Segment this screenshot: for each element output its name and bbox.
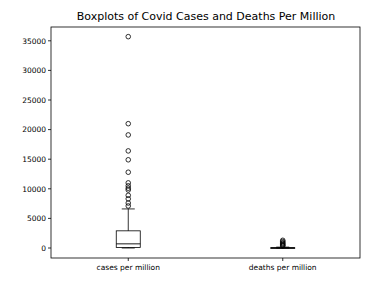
outlier-point: [126, 121, 131, 126]
outlier-point: [126, 149, 131, 154]
boxplot-cases: [116, 34, 140, 248]
outlier-point: [126, 157, 131, 162]
y-tick-label: 15000: [22, 155, 46, 164]
y-tick-label: 30000: [22, 66, 46, 75]
y-tick-label: 25000: [22, 96, 46, 105]
plot-frame: [51, 27, 360, 258]
boxplot-chart: Boxplots of Covid Cases and Deaths Per M…: [0, 0, 377, 290]
y-tick-label: 0: [41, 244, 46, 253]
x-axis: cases per milliondeaths per million: [97, 258, 317, 272]
y-axis: 05000100001500020000250003000035000: [22, 37, 51, 253]
y-tick-label: 5000: [27, 214, 46, 223]
x-tick-label: deaths per million: [249, 263, 317, 272]
y-tick-label: 10000: [22, 185, 46, 194]
boxplots: [116, 34, 295, 248]
y-tick-label: 35000: [22, 37, 46, 46]
chart-title: Boxplots of Covid Cases and Deaths Per M…: [77, 10, 336, 23]
boxplot-deaths: [271, 238, 295, 248]
x-tick-label: cases per million: [97, 263, 161, 272]
outlier-point: [126, 170, 131, 175]
iqr-box: [116, 231, 140, 248]
y-tick-label: 20000: [22, 125, 46, 134]
outlier-point: [126, 133, 131, 138]
outlier-point: [126, 34, 131, 39]
outlier-point: [126, 204, 131, 209]
